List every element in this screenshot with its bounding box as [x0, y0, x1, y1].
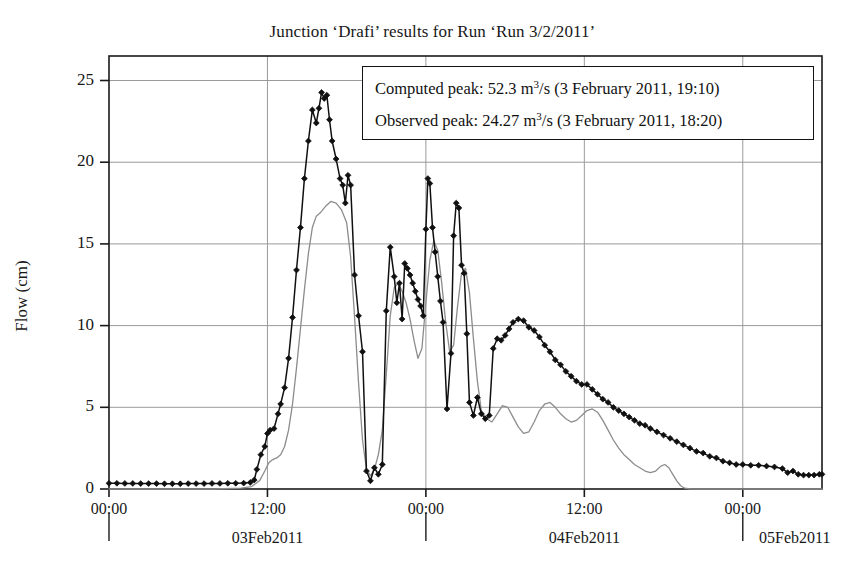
computed-peak-unit-tail: /s [539, 79, 554, 98]
x-tick-time-label: 00:00 [698, 500, 788, 518]
computed-peak-timestamp: (3 February 2011, 19:10) [554, 79, 719, 98]
computed-peak-line: Computed peak: 52.3 m3/s (3 February 201… [375, 73, 803, 105]
observed-peak-value: 24.27 [482, 111, 519, 130]
x-tick-time-label: 00:00 [381, 500, 471, 518]
x-tick-date-label: 04Feb2011 [524, 529, 644, 547]
chart-page: Junction ‘Drafi’ results for Run ‘Run 3/… [0, 0, 865, 573]
computed-peak-prefix: Computed peak: [375, 79, 488, 98]
y-tick-label: 5 [54, 396, 94, 416]
peak-annotation-box: Computed peak: 52.3 m3/s (3 February 201… [362, 66, 814, 140]
series-layer [106, 90, 825, 489]
computed-peak-value: 52.3 [488, 79, 517, 98]
x-tick-time-label: 12:00 [539, 500, 629, 518]
x-tick-date-label: 03Feb2011 [207, 529, 327, 547]
y-tick-label: 10 [54, 315, 94, 335]
x-tick-time-label: 00:00 [64, 500, 154, 518]
observed-peak-prefix: Observed peak: [375, 111, 482, 130]
y-tick-label: 0 [54, 478, 94, 498]
x-tick-date-label: 05Feb2011 [735, 529, 855, 547]
y-tick-label: 25 [54, 70, 94, 90]
x-tick-time-label: 12:00 [222, 500, 312, 518]
observed-peak-line: Observed peak: 24.27 m3/s (3 February 20… [375, 105, 803, 137]
y-tick-label: 20 [54, 151, 94, 171]
computed-peak-unit-base: m [517, 79, 534, 98]
y-tick-label: 15 [54, 233, 94, 253]
observed-peak-unit-tail: /s [542, 111, 557, 130]
observed-peak-timestamp: (3 February 2011, 18:20) [557, 111, 722, 130]
observed-peak-unit-base: m [519, 111, 536, 130]
